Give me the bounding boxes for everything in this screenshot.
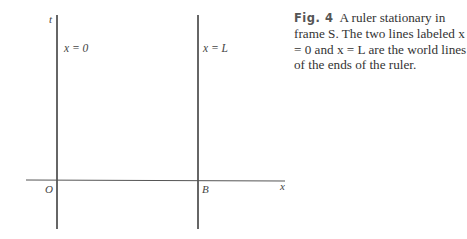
world-line-label-x0: x = 0 xyxy=(64,42,88,54)
origin-label: O xyxy=(45,183,53,195)
figure-caption: Fig. 4A ruler stationary in frame S. The… xyxy=(294,10,467,72)
world-line-label-xL: x = L xyxy=(203,42,228,54)
figure-number: Fig. 4 xyxy=(294,11,333,25)
t-axis-label: t xyxy=(49,13,52,25)
x-axis xyxy=(26,180,285,181)
x-axis-label: x xyxy=(280,180,285,192)
point-b-label: B xyxy=(202,183,209,195)
